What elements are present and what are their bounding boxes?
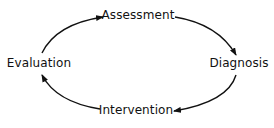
node-intervention: Intervention xyxy=(99,103,173,117)
arrow-diagnosis-to-intervention xyxy=(174,75,236,111)
node-diagnosis: Diagnosis xyxy=(209,56,268,70)
node-evaluation: Evaluation xyxy=(7,56,71,70)
arrow-assessment-to-diagnosis xyxy=(175,17,236,55)
arrow-evaluation-to-assessment xyxy=(42,17,103,53)
node-assessment: Assessment xyxy=(102,8,175,22)
arrow-intervention-to-evaluation xyxy=(42,75,100,109)
cycle-diagram: Assessment Diagnosis Intervention Evalua… xyxy=(0,0,274,128)
